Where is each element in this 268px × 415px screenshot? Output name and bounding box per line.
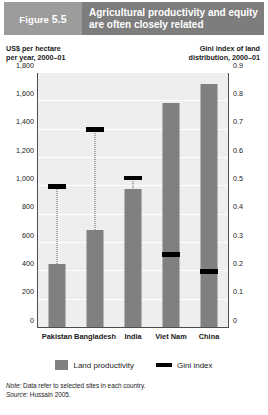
left-axis-caption-line2: per year, 2000–01: [6, 53, 66, 62]
gini-marker[interactable]: [86, 127, 104, 132]
productivity-bar[interactable]: [125, 189, 142, 328]
right-axis-caption: Gini index of land distribution, 2000–01: [189, 44, 261, 62]
x-axis-line: [38, 327, 228, 328]
note-text: Data refer to selected sites in each cou…: [21, 382, 145, 389]
left-axis-caption: US$ per hectare per year, 2000–01: [6, 44, 66, 62]
bar-slot: Bangladesh: [76, 73, 114, 328]
left-axis-caption-line1: US$ per hectare: [6, 44, 66, 53]
y-axis-left-tick-label: 1,800: [16, 62, 34, 69]
y-axis-right-tick-label: 0.9: [233, 62, 243, 69]
y-axis-left-tick-label: 0: [30, 317, 34, 324]
gini-marker[interactable]: [162, 252, 180, 257]
y-axis-left-tick-label: 1,600: [16, 91, 34, 98]
gini-marker[interactable]: [200, 269, 218, 274]
y-axis-right-tick-label: 0.5: [233, 176, 243, 183]
figure-title-box: Agricultural productivity and equity are…: [82, 2, 264, 35]
y-axis-right-tick-label: 0.6: [233, 147, 243, 154]
right-axis-caption-line1: Gini index of land: [189, 44, 261, 53]
y-axis-right-tick-label: 0.2: [233, 261, 243, 268]
y-axis-left-tick-label: 200: [22, 289, 34, 296]
productivity-bar[interactable]: [201, 84, 218, 328]
chart-area: 02004006008001,0001,2001,4001,6001,800 0…: [4, 65, 264, 350]
bar-slot: China: [190, 73, 228, 328]
productivity-bar[interactable]: [163, 103, 180, 328]
figure-header: Figure 5.5 Agricultural productivity and…: [4, 2, 264, 35]
productivity-bar[interactable]: [87, 230, 104, 328]
legend-item: Land productivity: [55, 360, 133, 370]
legend-bar-swatch-icon: [55, 360, 68, 370]
bar-slot: India: [114, 73, 152, 328]
x-axis-category-label: Viet Nam: [155, 333, 187, 341]
figure-title: Agricultural productivity and equity are…: [89, 7, 260, 31]
figure-number-box: Figure 5.5: [4, 2, 82, 35]
figure-number: 5.5: [52, 13, 67, 25]
y-axis-right-tick-label: 0: [233, 317, 237, 324]
x-axis-category-label: India: [124, 333, 141, 341]
note-line: Note: Data refer to selected sites in ea…: [6, 381, 262, 390]
axis-captions: US$ per hectare per year, 2000–01 Gini i…: [6, 44, 260, 62]
x-axis-category-label: China: [199, 333, 220, 341]
plot-region: 02004006008001,0001,2001,4001,6001,800 0…: [37, 73, 229, 328]
y-axis-right-tick-label: 0.1: [233, 289, 243, 296]
bar-slot: Viet Nam: [152, 73, 190, 328]
figure-prefix: Figure: [19, 14, 49, 25]
x-axis-category-label: Pakistan: [42, 333, 72, 341]
productivity-bar[interactable]: [49, 264, 66, 328]
source-line: Source: Hussain 2005.: [6, 390, 262, 399]
x-axis-category-label: Bangladesh: [74, 333, 116, 341]
bar-group: PakistanBangladeshIndiaViet NamChina: [38, 73, 228, 328]
y-axis-right-tick-label: 0.4: [233, 204, 243, 211]
gini-marker[interactable]: [124, 176, 142, 181]
legend-label: Gini index: [177, 361, 213, 370]
y-axis-left-tick-label: 400: [22, 261, 34, 268]
y-axis-left-tick-label: 1,000: [16, 176, 34, 183]
legend-label: Land productivity: [73, 361, 133, 370]
source-label: Source:: [6, 391, 28, 398]
gini-marker[interactable]: [48, 184, 66, 189]
legend-item: Gini index: [156, 361, 213, 370]
bar-slot: Pakistan: [38, 73, 76, 328]
y-axis-left-tick-label: 800: [22, 204, 34, 211]
y-axis-right-tick-label: 0.8: [233, 91, 243, 98]
source-text: Hussain 2005.: [28, 391, 71, 398]
figure-number-label: Figure 5.5: [19, 13, 66, 25]
y-axis-left-tick-label: 1,200: [16, 147, 34, 154]
y-axis-left-tick-label: 1,400: [16, 119, 34, 126]
y-axis-right-tick-label: 0.7: [233, 119, 243, 126]
y-axis-left-tick-label: 600: [22, 232, 34, 239]
legend-line-swatch-icon: [156, 363, 172, 368]
y-axis-right-tick-label: 0.3: [233, 232, 243, 239]
footnotes: Note: Data refer to selected sites in ea…: [6, 381, 262, 399]
note-label: Note:: [6, 382, 21, 389]
right-axis-caption-line2: distribution, 2000–01: [189, 53, 261, 62]
chart-legend: Land productivityGini index: [0, 360, 268, 370]
